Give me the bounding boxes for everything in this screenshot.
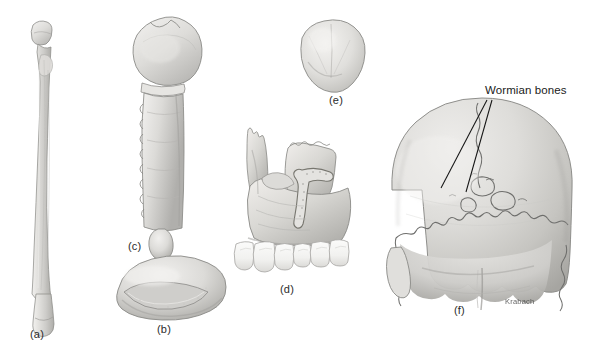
figure-label-e: (e) — [329, 94, 343, 106]
figure-f-skull-posterior — [387, 98, 573, 311]
figure-a-long-bone — [31, 21, 54, 337]
teeth-row — [234, 240, 349, 272]
figure-label-a: (a) — [30, 328, 44, 340]
figure-label-b: (b) — [157, 323, 171, 335]
figure-c-flat-bone-sternum — [133, 17, 202, 260]
figure-label-d: (d) — [280, 283, 294, 295]
bone-classification-plate: Wormian bones (a) (b) (c) (d) (e) (f) Kr… — [0, 0, 596, 356]
figure-label-c: (c) — [128, 240, 141, 252]
figure-label-f: (f) — [454, 304, 465, 316]
figure-e-sesamoid-bone — [301, 20, 365, 92]
wormian-bones-label: Wormian bones — [485, 84, 567, 96]
figure-b-irregular-bone — [117, 256, 226, 320]
figure-d-maxilla — [234, 128, 350, 272]
artist-signature: Krabach — [505, 297, 534, 306]
